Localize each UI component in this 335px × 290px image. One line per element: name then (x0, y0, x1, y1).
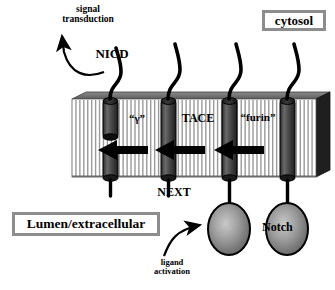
receptor-1-cleaved (103, 48, 121, 196)
receptor-3-ectodomain-oval (208, 203, 250, 255)
receptor-3-cytosolic-tail (229, 44, 241, 99)
ligand-activation-arrow (164, 225, 200, 256)
gamma-secretase-label: “γ” (124, 113, 150, 125)
receptor-4-cytosolic-tail (287, 44, 299, 99)
membrane-side-face (316, 92, 330, 177)
receptor-2-cytosolic-tail (168, 44, 180, 99)
lumen-extracellular-compartment-label: Lumen/extracellular (12, 212, 160, 236)
next-label: NEXT (152, 186, 196, 199)
receptor-2-transmembrane-cylinder (161, 101, 176, 178)
furin-label: “furin” (233, 112, 283, 124)
ligand-activation-label: ligand activation (136, 258, 208, 276)
diagram-canvas (0, 0, 335, 290)
receptor-1-upper-segment (103, 101, 118, 137)
notch-label: Notch (262, 221, 312, 234)
tace-label: TACE (176, 112, 220, 125)
nicd-label: NICD (88, 47, 136, 61)
cytosol-compartment-label: cytosol (262, 10, 326, 31)
notch-signaling-diagram: signal transduction NICD “γ” TACE “furin… (0, 0, 335, 290)
signal-transduction-label: signal transduction (42, 5, 134, 25)
receptor-1-cleavage-face (103, 134, 118, 140)
